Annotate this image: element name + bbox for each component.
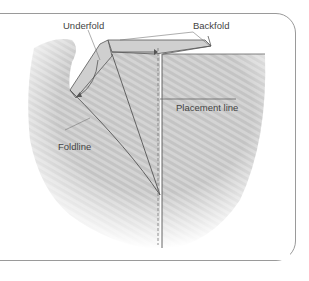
label-placement-line: Placement line [176, 102, 238, 113]
fold-diagram [0, 0, 309, 281]
label-foldline: Foldline [58, 141, 91, 152]
label-underfold: Underfold [63, 20, 104, 31]
label-backfold: Backfold [193, 20, 229, 31]
